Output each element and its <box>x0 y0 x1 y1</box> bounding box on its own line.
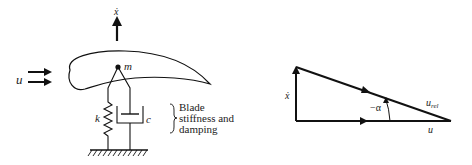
vertical-label: ẋ <box>284 90 290 101</box>
blade-model-diagram: ẋ u m k c Blade st <box>16 6 237 156</box>
base-label: u <box>428 124 433 135</box>
linkage-lines <box>108 67 130 108</box>
flow-arrowhead-icon <box>44 78 52 86</box>
damper-label: c <box>146 113 151 125</box>
damper-icon <box>117 106 143 150</box>
angle-arc-icon <box>386 100 390 121</box>
velocity-triangle-diagram: ẋ −α urel u <box>284 66 451 135</box>
flow-arrowhead-icon <box>44 68 52 76</box>
base-arrowhead-icon <box>360 117 368 125</box>
hypotenuse-label: urel <box>426 97 439 110</box>
velocity-arrowhead-icon <box>112 16 122 26</box>
airfoil-shape <box>69 51 210 90</box>
mass-label: m <box>124 60 132 72</box>
spring-icon <box>104 98 112 150</box>
angle-label: −α <box>370 102 382 113</box>
diagram-canvas: ẋ u m k c Blade st <box>0 0 472 165</box>
velocity-label: ẋ <box>113 6 119 17</box>
annotation-text: Blade stiffness and damping <box>179 101 237 135</box>
spring-label: k <box>95 112 101 124</box>
brace-icon <box>170 104 177 133</box>
hypotenuse-arrowhead-icon <box>361 86 371 93</box>
flow-label: u <box>16 72 23 87</box>
ground-hatch-icon <box>88 150 148 156</box>
